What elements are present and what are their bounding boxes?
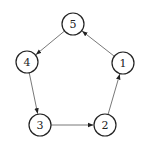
- edge-2-to-1: [108, 74, 120, 114]
- edge-4-to-3: [29, 73, 37, 114]
- cycle-diagram: 12345: [0, 0, 145, 146]
- node-4: 4: [16, 51, 38, 73]
- edge-1-to-5: [82, 31, 114, 56]
- node-label: 3: [37, 119, 44, 132]
- node-5: 5: [62, 13, 84, 35]
- node-label: 2: [102, 119, 109, 132]
- node-1: 1: [112, 52, 134, 74]
- node-label: 4: [24, 56, 31, 69]
- node-3: 3: [29, 114, 51, 136]
- node-label: 1: [120, 57, 127, 70]
- node-2: 2: [94, 114, 116, 136]
- nodes-group: 12345: [16, 13, 134, 136]
- edge-5-to-4: [36, 31, 65, 55]
- node-label: 5: [70, 18, 77, 31]
- edges-group: [29, 31, 120, 125]
